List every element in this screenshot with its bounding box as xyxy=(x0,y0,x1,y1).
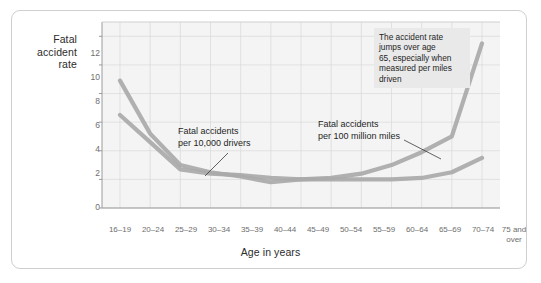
x-tick-4-line-1: 35–39 xyxy=(241,225,263,234)
callout-note-line-5: driven xyxy=(379,74,466,84)
x-tick-12-line-2: over xyxy=(494,235,534,245)
x-tick-1-line-1: 20–24 xyxy=(142,225,164,234)
x-tick-8-line-1: 55–59 xyxy=(373,225,395,234)
series-label-drivers-line-1: Fatal accidents xyxy=(178,126,251,138)
series-label-drivers-line-2: per 10,000 drivers xyxy=(178,138,251,150)
callout-note-box: The accident rate jumps over age 65, esp… xyxy=(374,28,470,88)
x-tick-11-line-1: 70–74 xyxy=(472,225,494,234)
x-tick-12: 75 and over xyxy=(494,225,534,245)
callout-note-line-2: jumps over age xyxy=(379,42,466,52)
x-tick-7-line-1: 50–54 xyxy=(340,225,362,234)
x-axis-title: Age in years xyxy=(0,246,541,258)
callout-note-line-3: 65, especially when xyxy=(379,53,466,63)
x-tick-9-line-1: 60–64 xyxy=(406,225,428,234)
x-tick-2-line-1: 25–29 xyxy=(175,225,197,234)
series-label-drivers: Fatal accidents per 10,000 drivers xyxy=(178,126,251,149)
x-tick-6-line-1: 45–49 xyxy=(307,225,329,234)
series-label-miles-line-1: Fatal accidents xyxy=(318,119,400,131)
chart-figure: Fatal accident rate 12 10 8 6 4 2 0 16–1… xyxy=(0,0,541,283)
callout-note-line-1: The accident rate xyxy=(379,32,466,42)
series-label-miles-line-2: per 100 million miles xyxy=(318,131,400,143)
callout-note-line-4: measured per miles xyxy=(379,63,466,73)
x-tick-10-line-1: 65–69 xyxy=(439,225,461,234)
series-label-miles: Fatal accidents per 100 million miles xyxy=(318,119,400,142)
x-tick-0-line-1: 16–19 xyxy=(109,225,131,234)
x-tick-12-line-1: 75 and xyxy=(494,225,534,235)
x-tick-3-line-1: 30–34 xyxy=(208,225,230,234)
x-tick-5-line-1: 40–44 xyxy=(274,225,296,234)
